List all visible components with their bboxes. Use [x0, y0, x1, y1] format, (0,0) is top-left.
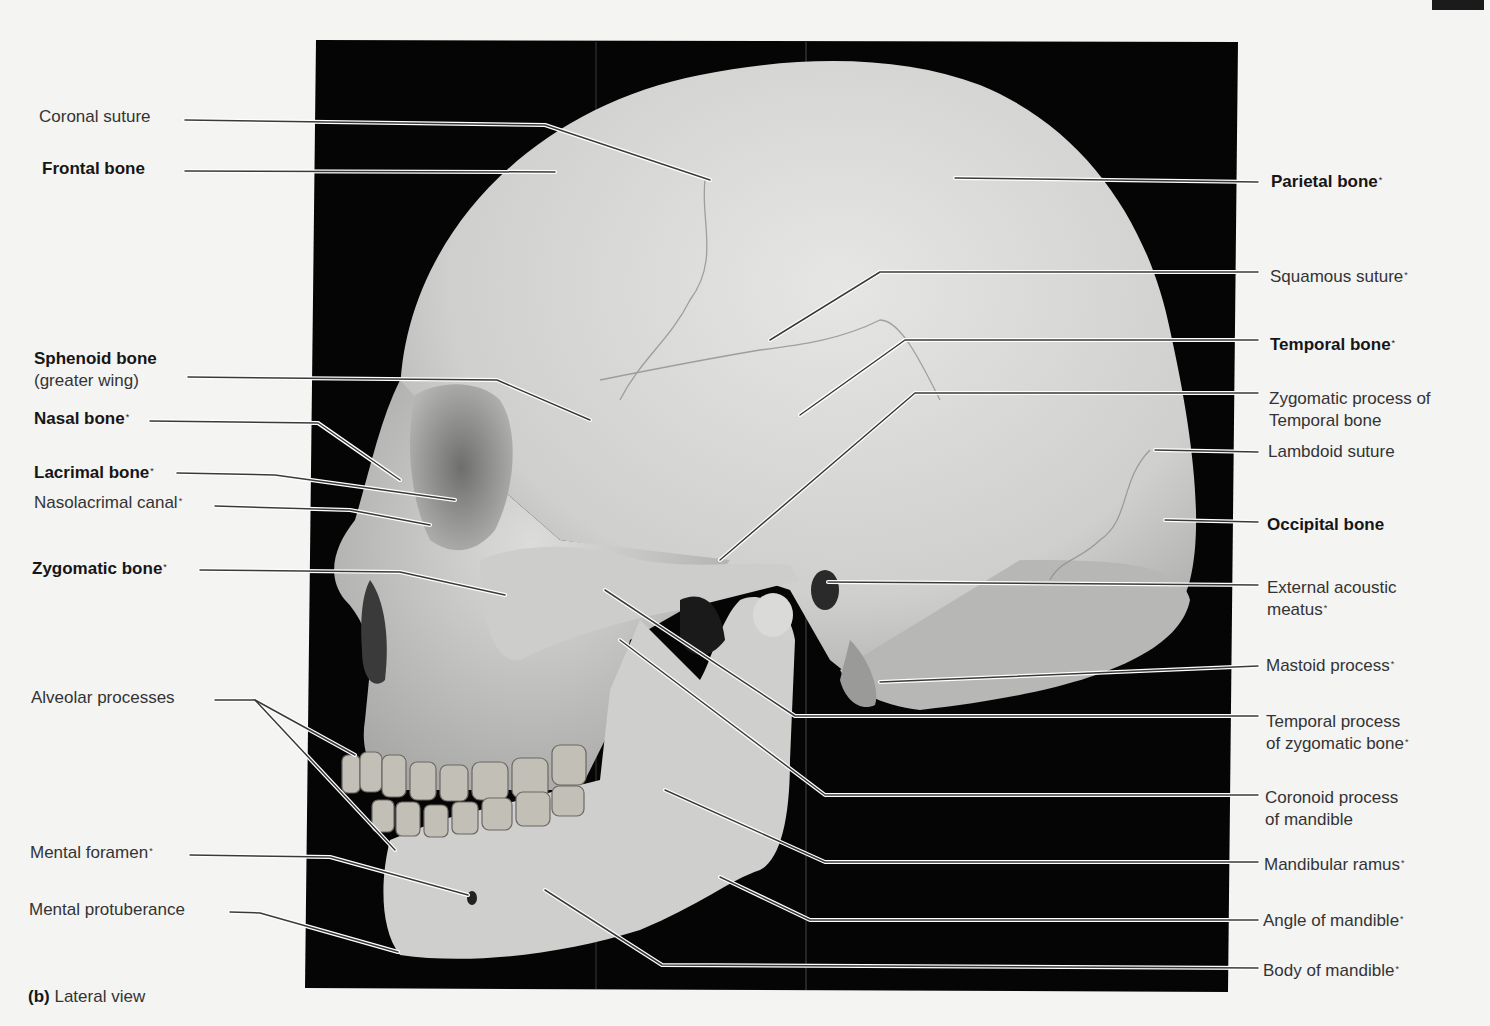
- caption-text: Lateral view: [50, 987, 145, 1006]
- label-angle-of-mandible: Angle of mandible*: [1263, 910, 1404, 932]
- label-nasal-bone: Nasal bone*: [34, 408, 129, 430]
- caption-part-letter: (b): [28, 987, 50, 1006]
- figure-caption: (b) Lateral view: [28, 987, 145, 1007]
- label-external-acoustic-meatus: External acoustic meatus*: [1267, 577, 1396, 621]
- label-temporal-bone: Temporal bone*: [1270, 334, 1395, 356]
- label-lambdoid-suture: Lambdoid suture: [1268, 441, 1395, 463]
- page-number: 113: [1424, 0, 1490, 20]
- label-alveolar-processes: Alveolar processes: [31, 687, 175, 709]
- label-mandibular-ramus: Mandibular ramus*: [1264, 854, 1405, 876]
- label-squamous-suture: Squamous suture*: [1270, 266, 1408, 288]
- label-zygomatic-bone: Zygomatic bone*: [32, 558, 167, 580]
- label-coronal-suture: Coronal suture: [39, 106, 151, 128]
- label-body-of-mandible: Body of mandible*: [1263, 960, 1399, 982]
- label-parietal-bone: Parietal bone*: [1271, 171, 1382, 193]
- label-temporal-process-zygomatic: Temporal process of zygomatic bone*: [1266, 711, 1408, 755]
- label-zygomatic-process-temporal: Zygomatic process of Temporal bone: [1269, 388, 1431, 432]
- label-lacrimal-bone: Lacrimal bone*: [34, 462, 154, 484]
- label-mastoid-process: Mastoid process*: [1266, 655, 1394, 677]
- label-occipital-bone: Occipital bone: [1267, 514, 1384, 536]
- label-coronoid-process: Coronoid process of mandible: [1265, 787, 1398, 831]
- label-sphenoid-bone: Sphenoid bone (greater wing): [34, 348, 157, 392]
- label-nasolacrimal-canal: Nasolacrimal canal*: [34, 492, 182, 514]
- label-frontal-bone: Frontal bone: [42, 158, 145, 180]
- label-mental-foramen: Mental foramen*: [30, 842, 153, 864]
- label-mental-protuberance: Mental protuberance: [29, 899, 185, 921]
